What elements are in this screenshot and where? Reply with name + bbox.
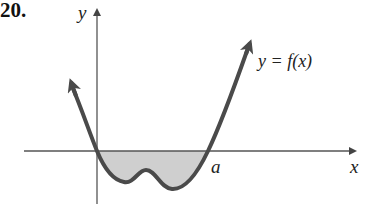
curve-label: y = f(x) [258, 51, 312, 72]
shaded-area [97, 151, 208, 189]
point-a-label: a [211, 156, 221, 178]
x-axis-label: x [350, 156, 358, 178]
y-axis-label: y [78, 2, 86, 24]
graph [0, 0, 365, 204]
